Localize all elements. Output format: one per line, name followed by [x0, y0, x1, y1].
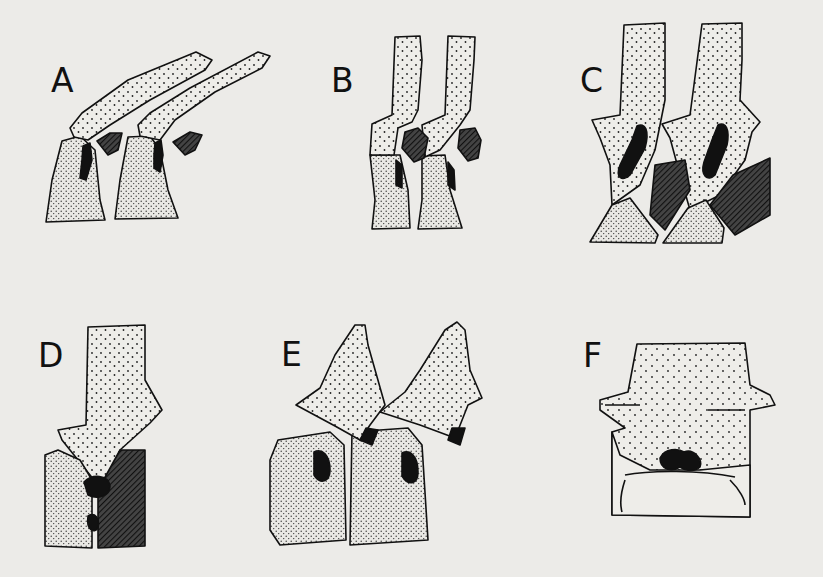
- panel-f-drawing: [600, 343, 775, 517]
- panel-b-drawing: [370, 36, 481, 229]
- panel-a-drawing: [46, 52, 270, 222]
- panel-label-a: A: [51, 64, 74, 97]
- panel-c-drawing: [590, 23, 770, 243]
- panel-label-c: C: [580, 64, 603, 97]
- panel-label-f: F: [583, 339, 602, 372]
- panel-label-e: E: [281, 338, 302, 371]
- panel-label-b: B: [331, 64, 354, 97]
- figure-drawing: [0, 0, 823, 577]
- vertebrae-figure: A B C D E F: [0, 0, 823, 577]
- panel-label-d: D: [38, 339, 63, 372]
